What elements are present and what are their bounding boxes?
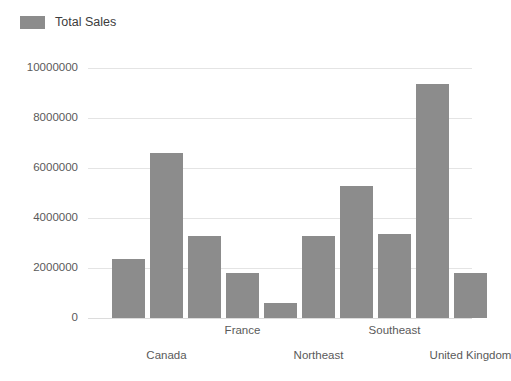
x-tick-label: Northeast (294, 350, 344, 362)
bar[interactable] (416, 84, 449, 318)
x-tick-label: Canada (146, 350, 186, 362)
bar[interactable] (302, 236, 335, 319)
gridline (88, 68, 472, 69)
y-tick-label: 2000000 (33, 262, 78, 274)
bar[interactable] (454, 273, 487, 318)
gridline (88, 168, 472, 169)
bar[interactable] (378, 234, 411, 318)
bar[interactable] (226, 273, 259, 318)
bar[interactable] (150, 153, 183, 318)
bar[interactable] (340, 186, 373, 319)
gridline (88, 218, 472, 219)
x-tick-label: Southeast (369, 325, 421, 337)
bar[interactable] (188, 236, 221, 319)
axis-baseline (88, 318, 472, 319)
y-tick-label: 10000000 (27, 62, 78, 74)
bar[interactable] (112, 259, 145, 318)
x-tick-label: France (225, 325, 261, 337)
y-tick-label: 4000000 (33, 212, 78, 224)
y-tick-label: 0 (72, 312, 78, 324)
x-tick-label: United Kingdom (430, 350, 511, 362)
y-tick-label: 6000000 (33, 162, 78, 174)
gridline (88, 118, 472, 119)
gridline (88, 268, 472, 269)
y-tick-label: 8000000 (33, 112, 78, 124)
bar[interactable] (264, 303, 297, 318)
